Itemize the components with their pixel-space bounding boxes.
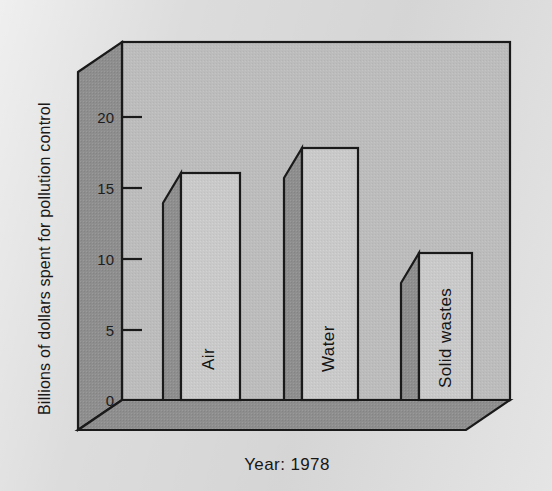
bar-air-side — [163, 173, 181, 400]
bar-solid-wastes[interactable]: Solid wastes — [401, 253, 472, 400]
y-tick-label-5: 5 — [106, 322, 114, 339]
y-tick-label-0: 0 — [106, 392, 114, 409]
y-tick-label-20: 20 — [97, 109, 114, 126]
bar-air-label: Air — [199, 348, 218, 370]
bar-air[interactable]: Air — [163, 173, 240, 400]
bar-chart-figure: 20 15 10 5 0 Air Water Solid wastes — [0, 0, 552, 491]
bar-water-label: Water — [319, 325, 338, 372]
y-tick-label-15: 15 — [97, 180, 114, 197]
bar-water-side — [284, 148, 302, 400]
bar-solid-wastes-label: Solid wastes — [436, 288, 455, 388]
chart-canvas: 20 15 10 5 0 Air Water Solid wastes — [0, 0, 552, 491]
chart-caption: Year: 1978 — [244, 455, 330, 474]
plot-left-wall — [78, 42, 122, 430]
plot-floor-plate — [78, 400, 510, 430]
y-tick-label-10: 10 — [97, 251, 114, 268]
y-axis-title: Billions of dollars spent for pollution … — [36, 102, 53, 415]
bar-water[interactable]: Water — [284, 148, 358, 400]
